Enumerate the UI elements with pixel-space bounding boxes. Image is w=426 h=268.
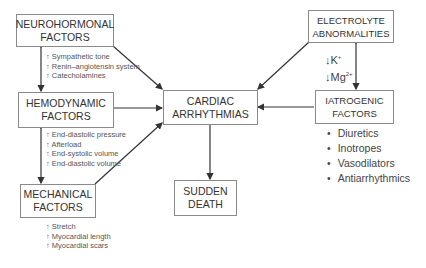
mechanical-notes: ↑ Stretch ↑ Myocardial length ↑ Myocardi… [46, 222, 111, 251]
box-label: HEMODYNAMIC [26, 97, 106, 110]
electrolyte-abnormalities-box: ELECTROLYTE ABNORMALITIES [308, 10, 394, 43]
ion-text: ↓K [325, 54, 338, 66]
note-item: ↑ End-diastolic pressure [46, 130, 126, 140]
potassium-label: ↓K+ [325, 50, 353, 67]
iatrogenic-list: Diuretics Inotropes Vasodilators Antiarr… [327, 126, 410, 186]
box-label: SUDDEN [183, 185, 227, 198]
box-label: FACTORS [332, 107, 377, 120]
cardiac-arrhythmias-box: CARDIAC ARRHYTHMIAS [163, 90, 258, 125]
box-label: CARDIAC [187, 95, 234, 108]
note-item: ↑ Afterload [46, 140, 126, 150]
list-item: Diuretics [327, 126, 410, 141]
note-item: ↑ Sympathetic tone [46, 52, 140, 62]
list-item: Inotropes [327, 141, 410, 156]
note-item: ↑ Renin–angiotensin system [46, 62, 140, 72]
magnesium-label: ↓Mg2+ [325, 67, 353, 84]
box-label: FACTORS [41, 110, 90, 123]
note-item: ↑ Myocardial scars [46, 241, 111, 251]
neurohormonal-factors-box: NEUROHORMONAL FACTORS [16, 14, 114, 47]
note-item: ↑ End-diastolic volume [46, 159, 126, 169]
iatrogenic-factors-box: IATROGENIC FACTORS [315, 90, 394, 124]
box-label: DEATH [188, 198, 223, 211]
box-label: NEUROHORMONAL [16, 18, 115, 31]
hemodynamic-factors-box: HEMODYNAMIC FACTORS [18, 92, 114, 128]
box-label: FACTORS [40, 31, 89, 44]
neurohormonal-notes: ↑ Sympathetic tone ↑ Renin–angiotensin s… [46, 52, 140, 81]
box-label: ARRHYTHMIAS [172, 108, 248, 121]
note-item: ↑ End-systolic volume [46, 149, 126, 159]
box-label: ELECTROLYTE [317, 14, 385, 27]
ion-charge: 2+ [346, 71, 353, 77]
box-label: IATROGENIC [325, 94, 383, 107]
sudden-death-box: SUDDEN DEATH [174, 180, 237, 216]
note-item: ↑ Catecholamines [46, 71, 140, 81]
hemodynamic-notes: ↑ End-diastolic pressure ↑ Afterload ↑ E… [46, 130, 126, 168]
box-label: ABNORMALITIES [312, 27, 389, 40]
ion-charge: + [338, 54, 342, 60]
mechanical-factors-box: MECHANICAL FACTORS [20, 184, 96, 218]
box-label: MECHANICAL [24, 188, 93, 201]
list-item: Vasodilators [327, 156, 410, 171]
box-label: FACTORS [33, 201, 82, 214]
note-item: ↑ Stretch [46, 222, 111, 232]
electrolyte-ions: ↓K+ ↓Mg2+ [325, 50, 353, 83]
ion-text: ↓Mg [325, 70, 346, 82]
note-item: ↑ Myocardial length [46, 232, 111, 242]
list-item: Antiarrhythmics [327, 171, 410, 186]
